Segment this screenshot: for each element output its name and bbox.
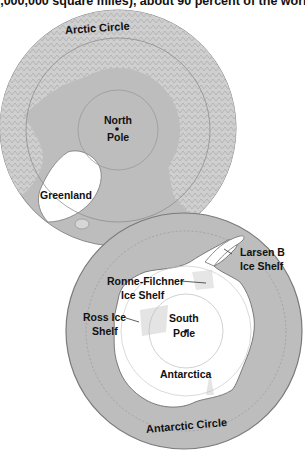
ross-label-line2: Shelf	[92, 325, 118, 337]
ronne-filchner-label-line2: Ice Shelf	[121, 289, 165, 301]
north-pole-label-line1: North	[104, 114, 132, 126]
polar-maps: Arctic Circle North Pole Greenland Larse	[0, 0, 305, 454]
greenland-label: Greenland	[40, 189, 92, 201]
larsen-b-label-line1: Larsen B	[240, 246, 285, 258]
north-pole-label-line2: Pole	[107, 131, 129, 143]
south-pole-label-line1: South	[169, 312, 199, 324]
iceland	[75, 219, 89, 229]
south-pole-label-line2: Pole	[173, 327, 195, 339]
ross-label-line1: Ross Ice	[83, 311, 126, 323]
larsen-b-label-line2: Ice Shelf	[240, 260, 284, 272]
antarctica-label: Antarctica	[160, 368, 212, 380]
ronne-filchner-label-line1: Ronne-Filchner	[107, 275, 184, 287]
ross-ice-shelf	[140, 305, 168, 336]
